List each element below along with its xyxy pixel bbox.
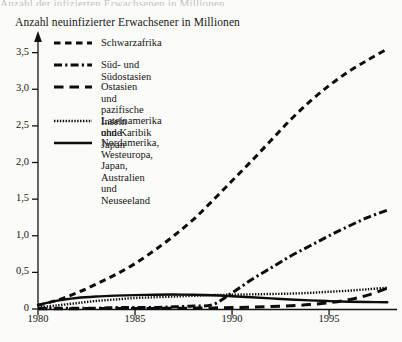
series-line — [38, 210, 387, 308]
legend-item: Süd- und Südostasien — [54, 58, 151, 82]
legend-label: Nordamerika, Westeuropa, Japan, Australi… — [101, 136, 159, 207]
y-tick-marks — [32, 53, 38, 309]
x-tick-label: 1995 — [307, 313, 351, 324]
legend-item: Nordamerika, Westeuropa, Japan, Australi… — [54, 136, 159, 207]
y-tick-label: 1,5 — [0, 192, 29, 203]
y-tick-label: 2,0 — [0, 156, 29, 167]
legend-item: Schwarzafrika — [54, 36, 162, 50]
legend-label: Schwarzafrika — [101, 36, 162, 49]
legend-swatch-solid — [54, 136, 92, 150]
x-tick-marks — [38, 310, 329, 316]
legend-item: Lateinamerika und Karibik — [54, 114, 162, 138]
y-tick-label: 2,5 — [0, 119, 29, 130]
legend-swatch-dotted — [54, 114, 92, 128]
chart-root: Anzahl der infizierten Erwachsenen in Mi… — [0, 0, 402, 342]
legend-swatch-dashed — [54, 36, 92, 50]
y-tick-label: 0 — [0, 302, 29, 313]
legend-label: Lateinamerika und Karibik — [101, 114, 162, 138]
y-tick-label: 0,5 — [0, 265, 29, 276]
legend-swatch-long-dash — [54, 80, 92, 94]
y-tick-label: 3,5 — [0, 46, 29, 57]
x-tick-label: 1980 — [16, 313, 60, 324]
legend-swatch-dash-dot — [54, 58, 92, 72]
x-tick-label: 1990 — [210, 313, 254, 324]
y-tick-label: 3,0 — [0, 82, 29, 93]
y-tick-label: 1,0 — [0, 229, 29, 240]
x-tick-label: 1985 — [113, 313, 157, 324]
legend-label: Süd- und Südostasien — [101, 58, 151, 82]
series-line — [38, 288, 387, 309]
